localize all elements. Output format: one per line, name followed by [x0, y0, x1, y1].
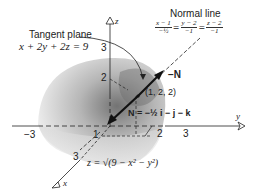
fraction-z: z − 2 −1 — [206, 20, 222, 35]
z-axis-arrow-icon — [106, 17, 114, 24]
fraction-x: x − 1 −½ — [155, 20, 172, 35]
normal-line-title: Normal line — [170, 9, 221, 19]
N-vector-label: N = −½ i − j − k — [128, 109, 191, 118]
y-axis-label: y — [236, 112, 240, 121]
tick-z-3: 3 — [101, 43, 107, 53]
tick-y-neg3: −3 — [24, 130, 35, 140]
x-axis-label: x — [63, 179, 67, 188]
point-marker — [136, 94, 139, 97]
neg-N-label: −N — [168, 70, 181, 80]
fraction-y: y − 2 −1 — [181, 20, 198, 35]
surface-equation: z = √(9 − x² − y²) — [87, 158, 158, 168]
normal-line-equation: x − 1 −½ = y − 2 −1 = z − 2 −1 — [155, 20, 223, 35]
tick-x-3: 3 — [73, 152, 79, 162]
z-axis-label: z — [115, 17, 119, 26]
tick-x-1: 1 — [93, 130, 99, 140]
tick-y-2: 2 — [157, 129, 163, 139]
point-label: (1, 2, 2) — [145, 88, 176, 97]
tangent-plane-equation: x + 2y + 2z = 9 — [19, 41, 88, 52]
x-axis-arrow-icon — [52, 182, 60, 188]
tick-z-2: 2 — [101, 73, 107, 83]
tangent-plane-title: Tangent plane — [29, 30, 92, 40]
tick-y-3: 3 — [183, 129, 189, 139]
